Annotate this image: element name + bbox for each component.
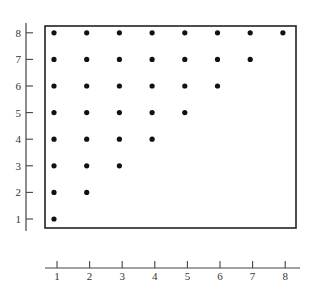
data-point [51, 216, 56, 221]
y-tick-label: 8 [16, 27, 22, 39]
data-point [182, 83, 187, 88]
x-tick-label: 5 [185, 270, 191, 282]
data-point [215, 83, 220, 88]
data-point [215, 30, 220, 35]
data-point [150, 83, 155, 88]
x-tick-label: 6 [217, 270, 223, 282]
data-point [280, 30, 285, 35]
data-point [117, 163, 122, 168]
plot-frame [45, 26, 296, 228]
data-point [248, 30, 253, 35]
scatter-chart: 12345678 12345678 [0, 0, 311, 300]
data-point [84, 83, 89, 88]
data-point [84, 57, 89, 62]
data-point [150, 57, 155, 62]
data-point [84, 30, 89, 35]
x-tick-label: 1 [54, 270, 60, 282]
y-tick-label: 6 [16, 80, 22, 92]
data-point [117, 30, 122, 35]
data-point [182, 30, 187, 35]
data-point [84, 110, 89, 115]
x-tick-label: 3 [119, 270, 125, 282]
x-axis: 12345678 [45, 261, 300, 282]
x-tick-label: 4 [152, 270, 158, 282]
data-point [84, 190, 89, 195]
data-point [84, 137, 89, 142]
y-tick-label: 1 [16, 213, 22, 225]
data-point [84, 163, 89, 168]
data-point [117, 83, 122, 88]
data-point [117, 110, 122, 115]
data-point [51, 30, 56, 35]
data-point [215, 57, 220, 62]
data-point [150, 110, 155, 115]
y-axis: 12345678 [16, 23, 34, 231]
x-tick-label: 7 [250, 270, 256, 282]
data-point [182, 110, 187, 115]
x-tick-label: 2 [87, 270, 93, 282]
data-point [182, 57, 187, 62]
data-points [51, 30, 285, 221]
data-point [150, 30, 155, 35]
data-point [51, 110, 56, 115]
data-point [117, 57, 122, 62]
data-point [51, 163, 56, 168]
data-point [51, 190, 56, 195]
y-tick-label: 4 [16, 133, 22, 145]
data-point [117, 137, 122, 142]
x-tick-label: 8 [282, 270, 288, 282]
y-tick-label: 3 [16, 160, 22, 172]
data-point [150, 137, 155, 142]
data-point [248, 57, 253, 62]
data-point [51, 83, 56, 88]
y-tick-label: 5 [16, 107, 22, 119]
data-point [51, 137, 56, 142]
y-tick-label: 7 [16, 53, 22, 65]
data-point [51, 57, 56, 62]
y-tick-label: 2 [16, 186, 22, 198]
